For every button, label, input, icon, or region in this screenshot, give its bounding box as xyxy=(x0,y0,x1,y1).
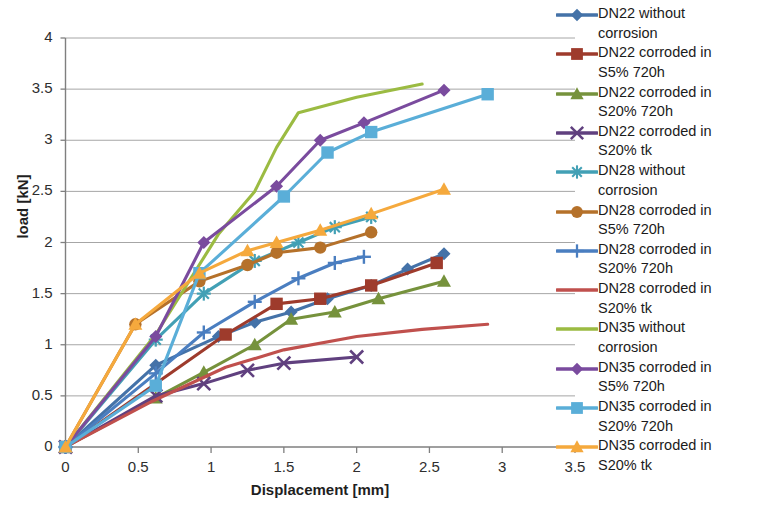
data-point-marker xyxy=(570,244,583,257)
y-axis-tick-label: 3.5 xyxy=(13,80,53,95)
data-point-marker xyxy=(437,84,450,97)
legend-label: DN35 corroded in S5% 720h xyxy=(598,358,712,397)
data-point-marker xyxy=(437,182,451,194)
legend-marker-icon xyxy=(556,241,598,260)
series-line xyxy=(66,324,488,447)
legend-label: DN28 without corrosion xyxy=(598,161,685,200)
data-point-marker xyxy=(365,226,377,238)
data-point-marker xyxy=(241,259,253,271)
legend-label: DN35 corroded in S20% 720h xyxy=(598,397,712,436)
x-axis-tick-label: 2 xyxy=(337,459,377,474)
data-point-marker xyxy=(571,48,583,60)
x-axis-tick-label: 1 xyxy=(191,459,231,474)
y-axis-title: load [kN] xyxy=(14,147,31,267)
legend-label: DN35 without corrosion xyxy=(598,318,685,357)
data-point-marker xyxy=(437,274,451,286)
data-point-marker xyxy=(278,190,290,202)
data-point-marker xyxy=(219,328,231,340)
y-axis-tick-label: 2 xyxy=(13,234,53,249)
legend-item[interactable]: DN22 without corrosion xyxy=(556,4,765,43)
legend-item[interactable]: DN28 corroded in S20% tk xyxy=(556,279,765,318)
legend-marker-icon xyxy=(556,123,598,142)
x-axis-tick-label: 0.5 xyxy=(118,459,158,474)
legend-label: DN28 corroded in S20% tk xyxy=(598,279,712,318)
legend-label: DN22 corroded in S5% 720h xyxy=(598,43,712,82)
legend-marker-icon xyxy=(556,84,598,103)
chart-legend: DN22 without corrosionDN22 corroded in S… xyxy=(556,4,765,504)
data-point-marker xyxy=(248,295,262,309)
y-axis-tick-label: 3 xyxy=(13,131,53,146)
x-axis-tick-label: 2.5 xyxy=(409,459,449,474)
legend-item[interactable]: DN35 without corrosion xyxy=(556,318,765,357)
legend-item[interactable]: DN35 corroded in S20% 720h xyxy=(556,397,765,436)
line-chart: load [kN] Displacement [mm] 00.511.522.5… xyxy=(0,0,765,507)
data-point-marker xyxy=(150,379,162,391)
y-axis-tick-label: 1 xyxy=(13,336,53,351)
data-point-marker xyxy=(571,363,583,375)
data-point-marker xyxy=(291,271,305,285)
x-axis-tick-label: 0 xyxy=(46,459,86,474)
data-point-marker xyxy=(571,402,583,414)
data-point-marker xyxy=(314,293,326,305)
x-axis-title: Displacement [mm] xyxy=(140,481,500,498)
data-point-marker xyxy=(270,247,282,259)
data-point-marker xyxy=(481,88,493,100)
legend-item[interactable]: DN28 without corrosion xyxy=(556,161,765,200)
legend-marker-icon xyxy=(556,162,598,181)
data-point-marker xyxy=(328,256,342,270)
data-point-marker xyxy=(431,257,443,269)
legend-marker-icon xyxy=(556,44,598,63)
legend-marker-icon xyxy=(556,5,598,24)
y-axis-tick-label: 1.5 xyxy=(13,285,53,300)
legend-item[interactable]: DN35 corroded in S20% tk xyxy=(556,436,765,475)
legend-marker-icon xyxy=(556,398,598,417)
legend-label: DN28 corroded in S20% 720h xyxy=(598,240,712,279)
legend-label: DN22 corroded in S20% 720h xyxy=(598,83,712,122)
legend-label: DN28 corroded in S5% 720h xyxy=(598,201,712,240)
legend-item[interactable]: DN22 corroded in S20% tk xyxy=(556,122,765,161)
legend-item[interactable]: DN28 corroded in S20% 720h xyxy=(556,240,765,279)
data-point-marker xyxy=(270,298,282,310)
data-point-marker xyxy=(197,287,211,301)
y-axis-tick-label: 4 xyxy=(13,29,53,44)
data-point-marker xyxy=(321,146,333,158)
legend-label: DN22 corroded in S20% tk xyxy=(598,122,712,161)
data-point-marker xyxy=(571,206,583,218)
legend-label: DN22 without corrosion xyxy=(598,4,685,43)
data-point-marker xyxy=(357,250,371,264)
legend-label: DN35 corroded in S20% tk xyxy=(598,436,712,475)
y-axis-tick-label: 2.5 xyxy=(13,182,53,197)
x-axis-tick-label: 1.5 xyxy=(264,459,304,474)
legend-item[interactable]: DN35 corroded in S5% 720h xyxy=(556,358,765,397)
legend-item[interactable]: DN22 corroded in S5% 720h xyxy=(556,43,765,82)
data-point-marker xyxy=(365,279,377,291)
y-axis-tick-label: 0.5 xyxy=(13,387,53,402)
data-point-marker xyxy=(365,126,377,138)
data-point-marker xyxy=(570,166,583,179)
legend-marker-icon xyxy=(556,319,598,338)
data-point-marker xyxy=(571,9,583,21)
data-point-marker xyxy=(314,241,326,253)
legend-item[interactable]: DN28 corroded in S5% 720h xyxy=(556,201,765,240)
legend-marker-icon xyxy=(556,202,598,221)
chart-series xyxy=(66,324,488,447)
legend-marker-icon xyxy=(556,359,598,378)
y-axis-tick-label: 0 xyxy=(13,438,53,453)
legend-marker-icon xyxy=(556,280,598,299)
legend-marker-icon xyxy=(556,437,598,456)
x-axis-tick-label: 3 xyxy=(482,459,522,474)
legend-item[interactable]: DN22 corroded in S20% 720h xyxy=(556,83,765,122)
